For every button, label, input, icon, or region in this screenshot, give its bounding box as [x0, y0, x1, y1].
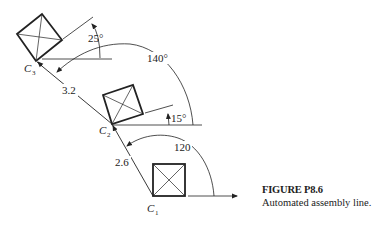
- label-c1-sub: 1: [155, 209, 159, 217]
- label-c2: C: [99, 124, 107, 136]
- figure-title: FIGURE P8.6: [262, 183, 371, 196]
- angle-label-15: 15°: [171, 112, 186, 124]
- c3-point-arrow: [38, 62, 42, 66]
- figure-caption: FIGURE P8.6 Automated assembly line.: [262, 183, 371, 209]
- angle-arc-15: [168, 114, 169, 125]
- c2-orientation-line: [145, 105, 173, 113]
- angle-label-25: 25°: [88, 32, 103, 44]
- label-c1: C: [147, 202, 155, 214]
- figure-description: Automated assembly line.: [262, 196, 371, 209]
- angle-arc-120: [127, 135, 214, 196]
- square-c2: [103, 85, 143, 124]
- label-c3: C: [24, 62, 32, 74]
- label-c2-sub: 2: [107, 131, 111, 139]
- angle-label-140: 140°: [147, 52, 168, 64]
- square-c1: [153, 164, 185, 196]
- square-c3: [17, 14, 62, 61]
- label-c3-sub: 3: [32, 69, 36, 77]
- angle-label-120: 120: [174, 141, 191, 153]
- link-length-3-2: 3.2: [62, 84, 76, 96]
- link-length-2-6: 2.6: [115, 156, 129, 168]
